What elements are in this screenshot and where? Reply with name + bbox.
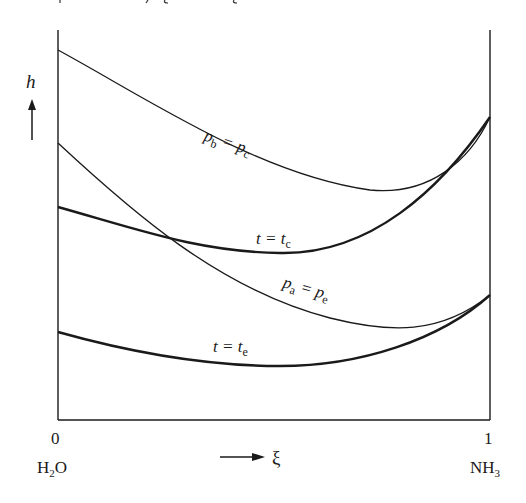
x-tick-1: 1	[484, 429, 493, 448]
x-axis-label: ξ	[272, 447, 281, 468]
curve-t-equals-te	[58, 295, 490, 366]
y-axis-label: h	[26, 71, 36, 92]
top-caption-fragment	[55, 0, 245, 4]
label-pa-equals-pe: pa = pe	[279, 272, 332, 307]
x-tick-0: 0	[51, 429, 60, 448]
label-t-equals-te: t = te	[213, 337, 248, 359]
curve-pb-equals-pc	[58, 50, 490, 191]
x-left-species-label: H2O	[37, 458, 67, 479]
x-axis-arrow-icon	[220, 453, 265, 461]
enthalpy-composition-diagram: pb = pc t = tc pa = pe t = te h 0 1 ξ H2…	[0, 0, 526, 503]
x-right-species-label: NH3	[470, 458, 501, 479]
label-pb-equals-pc: pb = pc	[200, 125, 254, 161]
label-t-equals-tc: t = tc	[256, 229, 291, 251]
y-axis-arrow-icon	[28, 99, 36, 140]
